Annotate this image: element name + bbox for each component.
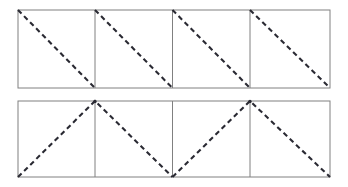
top-row-dashed-diagonals — [18, 10, 330, 88]
line-pattern-diagram — [0, 0, 348, 187]
apex-right-marker — [248, 100, 251, 103]
bottom-row-group — [18, 100, 330, 177]
top-row-frame — [18, 10, 330, 88]
dashed-diagonal-cell-2 — [95, 10, 173, 88]
dashed-diagonal-cell-4 — [250, 10, 330, 88]
bottom-row-dashed-zigzag — [18, 101, 330, 177]
apex-left-marker — [93, 100, 96, 103]
figure-canvas — [0, 0, 348, 187]
dashed-zigzag-triangle-2 — [173, 101, 331, 177]
dashed-diagonal-cell-3 — [173, 10, 251, 88]
top-row-group — [18, 10, 330, 88]
bottom-row-frame — [18, 101, 330, 177]
dashed-diagonal-cell-1 — [18, 10, 95, 88]
